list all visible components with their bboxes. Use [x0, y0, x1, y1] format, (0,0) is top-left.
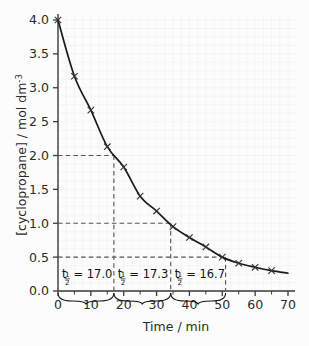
half-life-value: = 17.0 [74, 267, 113, 281]
y-tick-label: 1.5 [29, 182, 49, 197]
x-tick-label: 10 [83, 297, 99, 312]
y-tick-label: 2 5 [29, 114, 49, 129]
y-axis-title-group: [cyclopropane] / mol dm-3 [14, 74, 29, 236]
x-tick-label: 60 [247, 297, 263, 312]
half-life-subscript-denominator: 2 [178, 278, 183, 287]
y-tick-label: 4.0 [29, 12, 49, 27]
y-tick-label: 3.5 [29, 46, 49, 61]
half-life-value: = 17.3 [129, 267, 168, 281]
y-tick-label: 0.5 [29, 250, 49, 265]
y-axis-title: [cyclopropane] / mol dm-3 [14, 74, 29, 236]
y-tick-label: 3.0 [29, 80, 49, 95]
x-axis-title: Time / min [142, 319, 209, 334]
half-life-decay-chart: 010203040506070 0.00.51.01.52.02 53.03.5… [0, 0, 309, 346]
y-tick-label: 1.0 [29, 216, 49, 231]
x-tick-label: 30 [149, 297, 165, 312]
x-tick-label: 70 [280, 297, 296, 312]
chart-figure: 010203040506070 0.00.51.01.52.02 53.03.5… [0, 0, 309, 346]
half-life-value: = 16.7 [186, 267, 225, 281]
y-axis-tick-labels: 0.00.51.01.52.02 53.03.54.0 [29, 12, 49, 298]
y-tick-label: 2.0 [29, 148, 49, 163]
x-tick-label: 40 [181, 297, 197, 312]
half-life-subscript-denominator: 2 [65, 278, 70, 287]
y-tick-label: 0.0 [29, 283, 49, 298]
half-life-subscript-denominator: 2 [121, 278, 126, 287]
